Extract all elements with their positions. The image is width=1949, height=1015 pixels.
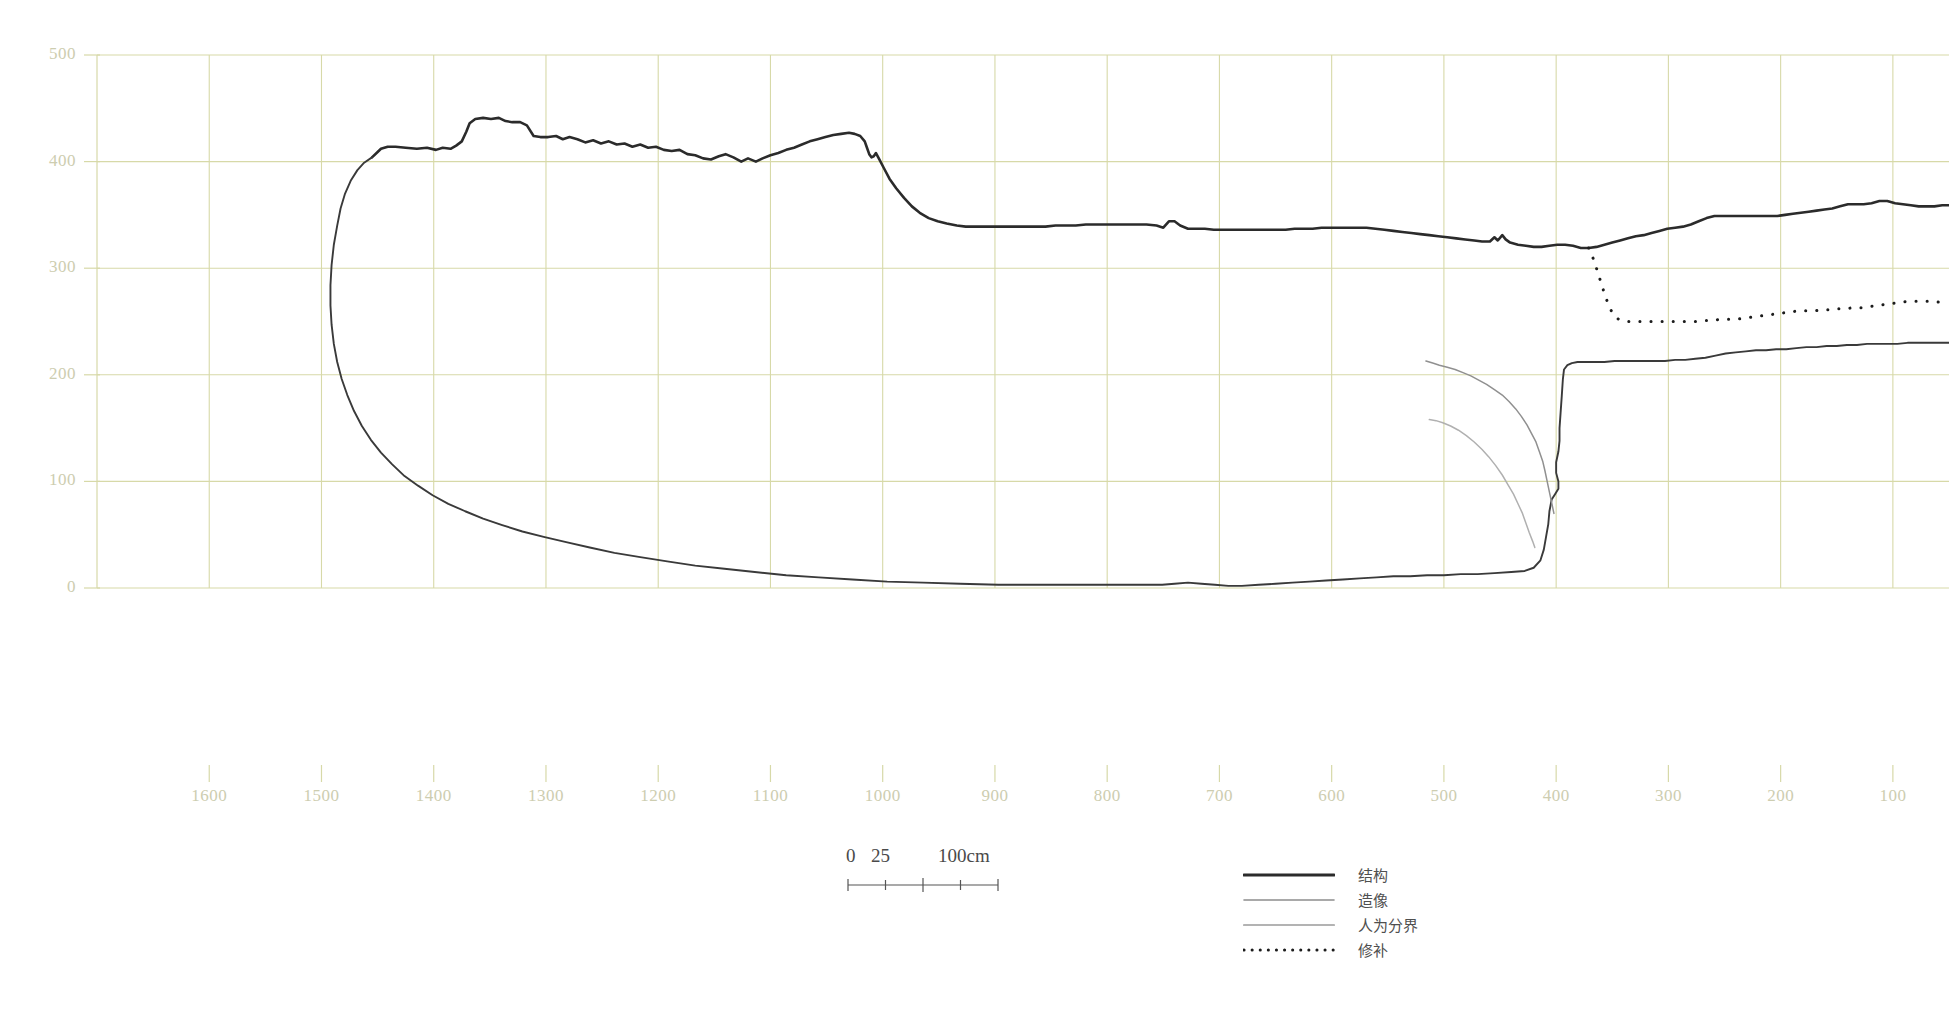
x-axis-label: 1400 bbox=[394, 786, 474, 806]
scale-label-mid: 25 bbox=[871, 845, 890, 867]
y-axis-label: 400 bbox=[18, 151, 76, 171]
grid-layer bbox=[97, 55, 1949, 588]
series-layer bbox=[330, 118, 1949, 586]
series-path-4 bbox=[1429, 420, 1535, 548]
x-axis-label: 300 bbox=[1628, 786, 1708, 806]
legend-label: 造像 bbox=[1358, 889, 1388, 910]
series-path-1 bbox=[330, 157, 1949, 586]
legend-swatch-3 bbox=[1243, 943, 1335, 957]
x-axis-label: 900 bbox=[955, 786, 1035, 806]
legend-item[interactable]: 造像 bbox=[1243, 887, 1483, 912]
y-axis-label: 100 bbox=[18, 470, 76, 490]
x-axis-label: 700 bbox=[1179, 786, 1259, 806]
x-axis-label: 1200 bbox=[618, 786, 698, 806]
x-axis-label: 1300 bbox=[506, 786, 586, 806]
x-axis-label: 1000 bbox=[843, 786, 923, 806]
legend-swatch-1 bbox=[1243, 893, 1335, 907]
x-axis-label: 400 bbox=[1516, 786, 1596, 806]
scale-bar: 0 25 100cm bbox=[846, 845, 1036, 900]
legend-item[interactable]: 结构 bbox=[1243, 862, 1483, 887]
series-path-3 bbox=[1426, 361, 1554, 513]
x-axis-label: 200 bbox=[1741, 786, 1821, 806]
legend-swatch-0 bbox=[1243, 868, 1335, 882]
x-axis-label: 1500 bbox=[281, 786, 361, 806]
x-axis-label: 800 bbox=[1067, 786, 1147, 806]
legend-label: 结构 bbox=[1358, 864, 1388, 885]
legend-item[interactable]: 修补 bbox=[1243, 937, 1483, 962]
legend-swatch-2 bbox=[1243, 918, 1335, 932]
legend-label: 人为分界 bbox=[1358, 914, 1418, 935]
x-axis-label: 1600 bbox=[169, 786, 249, 806]
y-axis-label: 500 bbox=[18, 44, 76, 64]
x-axis-label: 1100 bbox=[730, 786, 810, 806]
scale-bar-ruler bbox=[846, 875, 1006, 895]
legend-item[interactable]: 人为分界 bbox=[1243, 912, 1483, 937]
y-axis-label: 0 bbox=[18, 577, 76, 597]
series-path-0 bbox=[372, 118, 1949, 248]
x-axis-label: 600 bbox=[1292, 786, 1372, 806]
legend: 结构造像人为分界修补 bbox=[1243, 862, 1483, 972]
scale-label-end: 100cm bbox=[938, 845, 990, 867]
legend-label: 修补 bbox=[1358, 939, 1388, 960]
series-path-2 bbox=[1589, 248, 1949, 322]
figure-canvas: 5004003002001000160015001400130012001100… bbox=[0, 0, 1949, 1015]
y-axis-label: 300 bbox=[18, 257, 76, 277]
y-axis-label: 200 bbox=[18, 364, 76, 384]
scale-label-zero: 0 bbox=[846, 845, 856, 867]
x-axis-label: 100 bbox=[1853, 786, 1933, 806]
tick-layer bbox=[84, 55, 1893, 782]
x-axis-label: 500 bbox=[1404, 786, 1484, 806]
